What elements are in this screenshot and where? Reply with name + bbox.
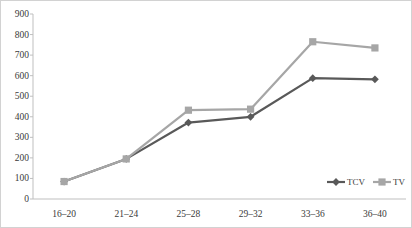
data-point-tv-1	[123, 155, 130, 162]
data-point-tv-2	[185, 107, 192, 114]
x-axis-tick-label-2: 25–28	[157, 209, 219, 220]
legend-marker-tcv	[332, 178, 340, 186]
chart-series-group	[60, 38, 379, 185]
y-axis-tick-label: 500	[1, 91, 29, 101]
series-line-tcv	[64, 78, 375, 181]
y-axis-tick-label: 800	[1, 30, 29, 40]
x-axis-tick-label-5: 36–40	[344, 209, 406, 220]
chart-plot-area	[1, 1, 412, 228]
data-point-tv-3	[247, 106, 254, 113]
x-axis-tick-label-1: 21–24	[95, 209, 157, 220]
y-axis-tick-label: 200	[1, 153, 29, 163]
y-axis-tick-label: 700	[1, 50, 29, 60]
y-axis-tick-label: 100	[1, 173, 29, 183]
line-chart: 0100200300400500600700800900 16–2021–242…	[0, 0, 412, 228]
y-axis-tick-label: 300	[1, 132, 29, 142]
x-axis-tick-label-3: 29–32	[220, 209, 282, 220]
y-axis-tick-label: 400	[1, 112, 29, 122]
data-point-tv-0	[60, 178, 67, 185]
y-axis-tick-label: 0	[1, 194, 29, 204]
data-point-tcv-5	[371, 75, 379, 83]
x-axis-tick-label-4: 33–36	[282, 209, 344, 220]
legend-label-tv: TV	[393, 177, 405, 187]
chart-axes	[30, 14, 406, 199]
y-axis-tick-label: 600	[1, 71, 29, 81]
data-point-tv-4	[309, 38, 316, 45]
series-line-tv	[64, 42, 375, 182]
x-axis-tick-label-0: 16–20	[33, 209, 95, 220]
legend-label-tcv: TCV	[347, 177, 365, 187]
data-point-tv-5	[371, 44, 378, 51]
y-axis-tick-label: 900	[1, 9, 29, 19]
legend-marker-tv	[378, 178, 385, 185]
